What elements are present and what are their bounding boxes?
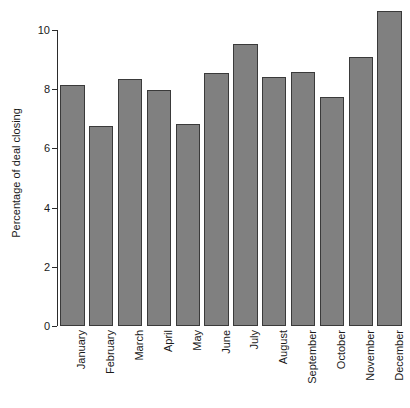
x-tick-label: February <box>105 330 116 374</box>
y-tick-label: 4 <box>44 202 50 213</box>
y-tick-label: 6 <box>44 143 50 154</box>
bar <box>118 79 142 326</box>
x-tick-label: April <box>163 330 174 352</box>
bar <box>89 126 113 326</box>
x-tick-label: November <box>365 330 376 381</box>
bar <box>320 97 344 326</box>
y-axis-title: Percentage of deal closing <box>4 18 28 328</box>
bar <box>204 73 228 326</box>
bars-layer <box>58 8 404 326</box>
x-tick-label: September <box>307 330 318 384</box>
y-tick-mark <box>52 30 57 31</box>
x-tick-label: June <box>221 330 232 354</box>
bar <box>377 11 401 326</box>
x-tick-label: December <box>394 330 405 381</box>
y-tick-label: 8 <box>44 84 50 95</box>
y-tick-label: 10 <box>38 25 50 36</box>
bar-chart: Percentage of deal closing 0246810 Janua… <box>0 0 410 408</box>
x-axis-labels: JanuaryFebruaryMarchAprilMayJuneJulyAugu… <box>58 328 405 408</box>
bar <box>233 44 257 326</box>
x-tick-label: October <box>336 330 347 369</box>
plot-area: 0246810 <box>57 8 404 326</box>
bar <box>176 124 200 326</box>
bar <box>147 90 171 326</box>
x-tick-label: July <box>249 330 260 350</box>
y-tick-label: 0 <box>44 321 50 332</box>
y-tick-mark <box>52 89 57 90</box>
x-tick-label: January <box>76 330 87 369</box>
x-tick-label: August <box>278 330 289 364</box>
y-tick-mark <box>52 208 57 209</box>
y-tick-label: 2 <box>44 261 50 272</box>
y-tick-mark <box>52 326 57 327</box>
y-tick-mark <box>52 148 57 149</box>
bar <box>349 57 373 326</box>
bar <box>291 72 315 326</box>
bar <box>262 77 286 326</box>
y-axis-title-label: Percentage of deal closing <box>10 108 22 238</box>
y-tick-mark <box>52 267 57 268</box>
bar <box>60 85 84 326</box>
x-tick-label: May <box>192 330 203 351</box>
x-tick-label: March <box>134 330 145 361</box>
